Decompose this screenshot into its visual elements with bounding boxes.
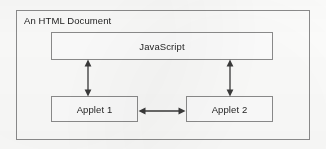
node-javascript-label: JavaScript (139, 41, 184, 52)
node-applet-1: Applet 1 (51, 96, 138, 122)
node-applet-2-label: Applet 2 (212, 104, 248, 115)
diagram-canvas: An HTML Document JavaScript Applet 1 App… (0, 0, 326, 149)
node-applet-2: Applet 2 (186, 96, 273, 122)
node-applet-1-label: Applet 1 (77, 104, 113, 115)
node-javascript: JavaScript (51, 32, 273, 60)
html-document-label: An HTML Document (24, 15, 111, 26)
